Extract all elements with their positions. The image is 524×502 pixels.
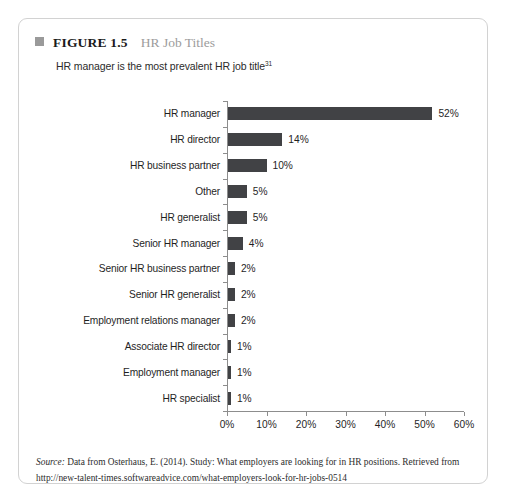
y-axis-tick	[223, 385, 227, 386]
chart-row: HR manager52%	[35, 101, 471, 127]
figure-subtitle: HR manager is the most prevalent HR job …	[56, 60, 487, 72]
x-axis: 0%10%20%30%40%50%60%	[227, 411, 464, 412]
category-label: HR business partner	[35, 160, 227, 171]
bar-cell: 5%	[227, 204, 471, 230]
x-axis-tick	[227, 412, 228, 416]
bar-cell: 14%	[227, 127, 471, 153]
y-axis-tick	[223, 282, 227, 283]
category-label: HR manager	[35, 108, 227, 119]
chart-rows: HR manager52%HR director14%HR business p…	[35, 101, 471, 411]
bar	[227, 237, 243, 250]
figure-subtitle-text: HR manager is the most prevalent HR job …	[56, 60, 265, 72]
chart-row: Senior HR manager4%	[35, 230, 471, 256]
x-axis-tick	[306, 412, 307, 416]
bar-cell: 4%	[227, 230, 471, 256]
x-axis-tick	[464, 412, 465, 416]
figure-title: HR Job Titles	[141, 35, 215, 51]
y-axis-tick	[223, 230, 227, 231]
source-label: Source:	[36, 457, 65, 467]
bar-value-label: 4%	[249, 238, 264, 249]
y-axis-tick	[223, 127, 227, 128]
x-axis-tick-label: 60%	[454, 419, 474, 430]
category-label: HR specialist	[35, 393, 227, 404]
bar-value-label: 1%	[237, 393, 252, 404]
x-axis-tick-label: 0%	[220, 419, 235, 430]
category-label: Senior HR business partner	[35, 263, 227, 274]
category-label: Senior HR manager	[35, 238, 227, 249]
category-label: Senior HR generalist	[35, 289, 227, 300]
bar-value-label: 1%	[237, 367, 252, 378]
y-axis-tick	[223, 179, 227, 180]
chart-row: Employment relations manager2%	[35, 308, 471, 334]
bar	[227, 211, 247, 224]
bar-cell: 1%	[227, 385, 471, 411]
chart-row: Senior HR business partner2%	[35, 256, 471, 282]
bar-cell: 1%	[227, 333, 471, 359]
bar-value-label: 2%	[241, 315, 256, 326]
bar-value-label: 5%	[253, 186, 268, 197]
chart-row: HR specialist1%	[35, 385, 471, 411]
y-axis-tick	[223, 101, 227, 102]
chart-row: Other5%	[35, 178, 471, 204]
bar-value-label: 14%	[288, 134, 308, 145]
x-axis-tick-label: 50%	[414, 419, 434, 430]
y-axis-tick	[223, 256, 227, 257]
bar-value-label: 10%	[273, 160, 293, 171]
y-axis-tick	[223, 308, 227, 309]
bar-value-label: 52%	[438, 108, 458, 119]
bar-cell: 52%	[227, 101, 471, 127]
chart-row: Associate HR director1%	[35, 333, 471, 359]
bar-cell: 2%	[227, 308, 471, 334]
bar-value-label: 1%	[237, 341, 252, 352]
x-axis-tick	[346, 412, 347, 416]
x-axis-tick	[385, 412, 386, 416]
bar-cell: 2%	[227, 282, 471, 308]
y-axis-tick	[223, 204, 227, 205]
category-label: Employment relations manager	[35, 315, 227, 326]
x-axis-tick-label: 40%	[375, 419, 395, 430]
figure-header: FIGURE 1.5 HR Job Titles	[19, 19, 487, 51]
category-label: Employment manager	[35, 367, 227, 378]
category-label: HR director	[35, 134, 227, 145]
category-label: Other	[35, 186, 227, 197]
figure-subtitle-footnote: 31	[265, 60, 272, 67]
x-axis-tick	[425, 412, 426, 416]
chart-row: Senior HR generalist2%	[35, 282, 471, 308]
y-axis-tick	[223, 153, 227, 154]
chart-row: Employment manager1%	[35, 359, 471, 385]
bar-value-label: 2%	[241, 263, 256, 274]
figure-card: FIGURE 1.5 HR Job Titles HR manager is t…	[18, 18, 488, 484]
bar	[227, 288, 235, 301]
bar-value-label: 5%	[253, 212, 268, 223]
x-axis-tick-label: 20%	[296, 419, 316, 430]
bar	[227, 133, 282, 146]
y-axis	[227, 101, 228, 411]
bar-chart: HR manager52%HR director14%HR business p…	[35, 101, 471, 429]
y-axis-tick	[223, 359, 227, 360]
bar-cell: 5%	[227, 178, 471, 204]
bar-cell: 1%	[227, 359, 471, 385]
chart-row: HR business partner10%	[35, 153, 471, 179]
x-axis-tick-label: 30%	[335, 419, 355, 430]
category-label: HR generalist	[35, 212, 227, 223]
source-text: Data from Osterhaus, E. (2014). Study: W…	[36, 457, 459, 483]
bar	[227, 159, 267, 172]
chart-row: HR director14%	[35, 127, 471, 153]
source-note: Source: Data from Osterhaus, E. (2014). …	[36, 455, 470, 486]
bar-value-label: 2%	[241, 289, 256, 300]
figure-number: FIGURE 1.5	[53, 35, 128, 51]
bar-cell: 2%	[227, 256, 471, 282]
x-axis-tick-label: 10%	[256, 419, 276, 430]
bar	[227, 185, 247, 198]
x-axis-tick	[267, 412, 268, 416]
bar	[227, 107, 432, 120]
category-label: Associate HR director	[35, 341, 227, 352]
bar-cell: 10%	[227, 153, 471, 179]
bar	[227, 262, 235, 275]
y-axis-tick	[223, 334, 227, 335]
bar	[227, 314, 235, 327]
filled-square-icon	[35, 37, 44, 46]
chart-row: HR generalist5%	[35, 204, 471, 230]
